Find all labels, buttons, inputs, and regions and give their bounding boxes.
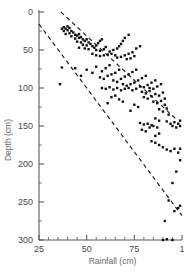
- data-point: [120, 56, 122, 58]
- y-tick-label: 300: [18, 235, 33, 245]
- data-point: [97, 42, 99, 44]
- data-point: [135, 47, 137, 49]
- data-point: [120, 43, 122, 45]
- data-point: [145, 92, 147, 94]
- data-point: [133, 55, 135, 57]
- data-point: [150, 140, 152, 142]
- data-point: [89, 43, 91, 45]
- data-point: [156, 85, 158, 87]
- data-point: [135, 69, 137, 71]
- data-point: [72, 31, 74, 33]
- data-point: [131, 71, 133, 73]
- data-point: [95, 44, 97, 46]
- data-point: [145, 75, 147, 77]
- y-axis-title: Depth (cm): [3, 119, 13, 161]
- data-point: [114, 94, 116, 96]
- data-point: [131, 89, 133, 91]
- y-tick-label: 0: [28, 7, 33, 17]
- x-tick-label: 1: [179, 244, 184, 254]
- data-point: [99, 50, 101, 52]
- data-point: [68, 32, 70, 34]
- data-point: [177, 207, 179, 209]
- data-point: [167, 113, 169, 115]
- data-point: [160, 83, 162, 85]
- data-point: [169, 150, 171, 152]
- data-point: [171, 239, 173, 241]
- data-point: [110, 96, 112, 98]
- data-point: [108, 50, 110, 52]
- data-point: [129, 57, 131, 59]
- y-tick-label: 50: [23, 45, 33, 55]
- data-point: [137, 106, 139, 108]
- data-point: [124, 75, 126, 77]
- data-point: [112, 79, 114, 81]
- data-point: [106, 53, 108, 55]
- data-point: [101, 38, 103, 40]
- data-point: [108, 64, 110, 66]
- data-point: [64, 33, 66, 35]
- data-point: [106, 75, 108, 77]
- data-point: [179, 125, 181, 127]
- data-point: [101, 70, 103, 72]
- data-point: [173, 148, 175, 150]
- data-point: [127, 34, 129, 36]
- data-point: [114, 72, 116, 74]
- y-tick-label: 100: [18, 83, 33, 93]
- x-tick-label: 75: [129, 244, 139, 254]
- data-point: [152, 100, 154, 102]
- data-point: [150, 81, 152, 83]
- data-point: [160, 100, 162, 102]
- data-point: [108, 86, 110, 88]
- data-point: [166, 107, 168, 109]
- x-tick-label: 50: [82, 244, 92, 254]
- data-point: [106, 102, 108, 104]
- data-point: [91, 72, 93, 74]
- data-point: [146, 97, 148, 99]
- data-point: [148, 126, 150, 128]
- data-point: [167, 199, 169, 201]
- data-point: [156, 102, 158, 104]
- data-point: [101, 87, 103, 89]
- y-tick-label: 200: [18, 159, 33, 169]
- data-point: [78, 47, 80, 49]
- data-point: [85, 44, 87, 46]
- x-tick-label: 25: [34, 244, 44, 254]
- data-point: [110, 53, 112, 55]
- scatter-plot-figure: 0501001502002503002550751Rainfall (cm)De…: [0, 0, 184, 278]
- data-point: [103, 48, 105, 50]
- data-point: [120, 89, 122, 91]
- data-point: [118, 69, 120, 71]
- data-point: [179, 205, 181, 207]
- data-point: [154, 79, 156, 81]
- data-point: [148, 90, 150, 92]
- data-point: [63, 30, 65, 32]
- data-point: [95, 49, 97, 51]
- data-point: [112, 49, 114, 51]
- data-point: [139, 45, 141, 47]
- data-point: [76, 40, 78, 42]
- data-point: [146, 84, 148, 86]
- data-point: [85, 38, 87, 40]
- data-point: [164, 104, 166, 106]
- data-point: [105, 67, 107, 69]
- data-point: [152, 125, 154, 127]
- data-point: [162, 146, 164, 148]
- data-point: [114, 54, 116, 56]
- data-point: [82, 43, 84, 45]
- data-point: [139, 85, 141, 87]
- data-point: [146, 123, 148, 125]
- data-point: [74, 37, 76, 39]
- data-point: [80, 41, 82, 43]
- data-point: [80, 75, 82, 77]
- data-point: [150, 95, 152, 97]
- data-point: [177, 123, 179, 125]
- data-point: [158, 144, 160, 146]
- data-point: [103, 78, 105, 80]
- data-point: [162, 110, 164, 112]
- data-point: [175, 170, 177, 172]
- data-point: [166, 120, 168, 122]
- data-point: [164, 220, 166, 222]
- data-point: [141, 91, 143, 93]
- data-point: [124, 54, 126, 56]
- data-point: [166, 238, 168, 240]
